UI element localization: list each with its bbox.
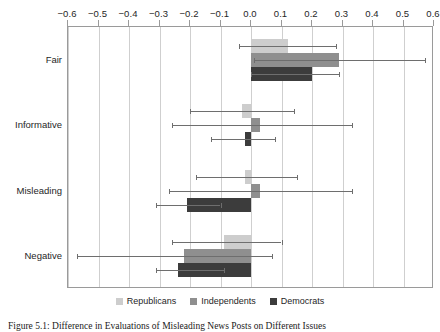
error-bar-cap [77, 254, 78, 259]
legend-swatch-icon [190, 298, 197, 305]
y-axis: FairInformativeMisleadingNegative [0, 26, 62, 288]
x-tick-label: 0.5 [396, 8, 410, 19]
error-bar-cap [196, 175, 197, 180]
legend-swatch-icon [270, 298, 277, 305]
error-bar [77, 256, 272, 257]
error-bar-cap [224, 268, 225, 273]
y-tick-label: Misleading [17, 184, 62, 195]
x-tick-label: 0.1 [274, 8, 288, 19]
error-bar-cap [239, 44, 240, 49]
x-tick-label: −0.2 [179, 8, 198, 19]
error-bar [156, 205, 220, 206]
error-bar [172, 242, 282, 243]
error-bar-cap [211, 137, 212, 142]
plot-area [67, 26, 433, 288]
figure-container: −0.6−0.5−0.4−0.3−0.2−0.10.00.10.20.30.40… [0, 0, 440, 332]
gridline [190, 27, 191, 287]
x-tick-label: 0.0 [243, 8, 257, 19]
gridline [343, 27, 344, 287]
x-tick-label: 0.3 [335, 8, 349, 19]
x-tick-mark [433, 20, 434, 26]
error-bar [169, 191, 352, 192]
x-tick-label: −0.4 [118, 8, 137, 19]
x-tick-label: 0.4 [365, 8, 379, 19]
error-bar [211, 139, 275, 140]
error-bar [251, 74, 339, 75]
error-bar [190, 111, 294, 112]
legend-swatch-icon [116, 298, 123, 305]
legend-label: Independents [201, 296, 256, 306]
error-bar-cap [275, 137, 276, 142]
chart-legend: RepublicansIndependentsDemocrats [0, 296, 440, 306]
gridline [160, 27, 161, 287]
error-bar-cap [282, 240, 283, 245]
error-bar-cap [156, 268, 157, 273]
x-tick-label: −0.3 [149, 8, 168, 19]
gridline [129, 27, 130, 287]
legend-label: Republicans [127, 296, 177, 306]
x-tick-label: 0.6 [426, 8, 440, 19]
error-bar-cap [251, 72, 252, 77]
error-bar-cap [169, 189, 170, 194]
legend-label: Democrats [281, 296, 325, 306]
gridline [404, 27, 405, 287]
error-bar-cap [339, 72, 340, 77]
y-tick-label: Informative [15, 119, 62, 130]
error-bar [156, 270, 223, 271]
error-bar-cap [352, 189, 353, 194]
error-bar-cap [272, 254, 273, 259]
error-bar [196, 177, 297, 178]
error-bar [172, 125, 352, 126]
legend-item-republicans[interactable]: Republicans [116, 296, 177, 306]
y-tick-label: Fair [46, 53, 62, 64]
error-bar-cap [156, 203, 157, 208]
gridline [99, 27, 100, 287]
error-bar-cap [172, 240, 173, 245]
error-bar-cap [172, 123, 173, 128]
gridline [68, 27, 69, 287]
x-tick-label: −0.1 [210, 8, 229, 19]
error-bar-cap [254, 58, 255, 63]
legend-item-democrats[interactable]: Democrats [270, 296, 325, 306]
gridline [221, 27, 222, 287]
legend-item-independents[interactable]: Independents [190, 296, 256, 306]
error-bar-cap [294, 109, 295, 114]
x-tick-label: −0.5 [88, 8, 107, 19]
x-tick-label: 0.2 [304, 8, 318, 19]
error-bar-cap [190, 109, 191, 114]
figure-caption: Figure 5.1: Difference in Evaluations of… [8, 320, 432, 332]
x-tick-label: −0.6 [57, 8, 76, 19]
y-tick-label: Negative [25, 250, 63, 261]
error-bar [239, 46, 337, 47]
error-bar-cap [221, 203, 222, 208]
error-bar-cap [425, 58, 426, 63]
error-bar-cap [297, 175, 298, 180]
error-bar-cap [352, 123, 353, 128]
error-bar [254, 60, 425, 61]
error-bar-cap [336, 44, 337, 49]
gridline [373, 27, 374, 287]
